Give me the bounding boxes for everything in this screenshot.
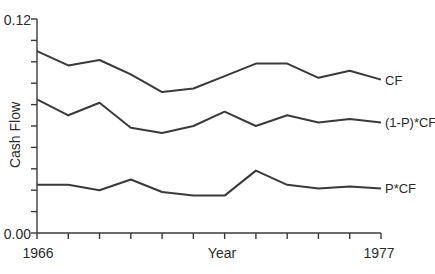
x-axis-title: Year — [208, 245, 237, 261]
series-group — [37, 51, 381, 196]
series-line-p-cf — [37, 171, 381, 196]
series-label-one-minus-p-cf: (1-P)*CF — [385, 115, 435, 130]
line-chart: 0.12 0.00 1966 1977 Year Cash Flow CF (1… — [0, 0, 435, 274]
series-line-cf — [37, 51, 381, 92]
y-tick-label-bottom: 0.00 — [4, 226, 31, 242]
series-label-cf: CF — [385, 73, 402, 88]
series-line-one-minus-p-cf — [37, 99, 381, 133]
x-tick-label-right: 1977 — [363, 245, 394, 261]
series-label-p-cf: P*CF — [385, 181, 416, 196]
y-axis-title: Cash Flow — [7, 101, 23, 168]
y-ticks — [31, 19, 37, 233]
axes — [31, 19, 381, 239]
x-tick-label-left: 1966 — [22, 245, 53, 261]
y-tick-label-top: 0.12 — [4, 12, 31, 28]
x-ticks — [37, 233, 381, 239]
